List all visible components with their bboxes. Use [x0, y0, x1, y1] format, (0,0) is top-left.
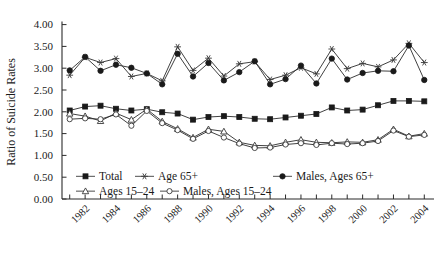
x-axis-tick-label: 1988 [161, 203, 184, 226]
x-axis-tick-label: 1984 [100, 202, 123, 225]
x-axis-tick-label: 1982 [69, 203, 92, 226]
data-point-marker [191, 117, 196, 122]
data-point-marker [206, 60, 211, 65]
series-age-65 [66, 40, 427, 83]
data-point-marker [360, 70, 365, 75]
data-point-marker [129, 65, 134, 70]
data-point-marker [329, 105, 334, 110]
data-point-marker [328, 46, 335, 52]
data-point-marker [160, 82, 165, 87]
data-point-marker [252, 59, 257, 64]
x-axis-tick-label: 1996 [285, 203, 308, 226]
x-axis-tick-label: 1990 [192, 203, 215, 226]
data-point-marker [67, 68, 72, 73]
data-point-marker [422, 77, 427, 82]
legend-item[interactable]: Males, Ages 15–24 [160, 185, 272, 198]
legend-label: Males, Ages 15–24 [183, 185, 272, 198]
legend-marker-icon [280, 174, 285, 179]
data-point-marker [359, 60, 366, 66]
data-point-marker [345, 141, 350, 146]
data-point-marker [97, 60, 104, 66]
series-line [70, 43, 425, 80]
series-line [70, 109, 425, 146]
data-point-marker [83, 116, 88, 121]
legend-marker-icon [167, 189, 172, 194]
data-point-marker [268, 117, 273, 122]
y-axis-tick-label: 1.50 [34, 127, 54, 139]
legend-item[interactable]: Age 65+ [135, 170, 198, 183]
y-axis-tick-labels: 0.000.501.001.502.002.503.003.504.00 [34, 18, 54, 204]
legend-label: Ages 15–24 [99, 185, 155, 198]
y-axis-title-group: Ratio of Suicide Rates [4, 58, 18, 166]
data-point-marker [237, 115, 242, 120]
data-point-marker [113, 56, 120, 62]
data-point-marker [283, 142, 288, 147]
data-point-marker [175, 111, 180, 116]
data-point-marker [391, 128, 396, 133]
data-point-marker [345, 108, 350, 113]
data-point-marker [129, 123, 134, 128]
data-point-marker [267, 82, 272, 87]
data-point-marker [313, 71, 320, 77]
data-point-marker [345, 77, 350, 82]
legend-item[interactable]: Ages 15–24 [76, 185, 155, 198]
data-point-marker [298, 63, 303, 68]
data-point-marker [391, 69, 396, 74]
data-point-marker [237, 69, 242, 74]
data-point-marker [98, 68, 103, 73]
data-point-marker [128, 116, 134, 122]
x-axis-tick-label: 2004 [408, 202, 431, 225]
data-point-marker [406, 134, 411, 139]
data-point-marker [174, 44, 181, 50]
data-point-marker [221, 135, 226, 140]
x-axis-tick-labels: 1982198419861988199019921994199619982000… [69, 202, 431, 225]
x-axis-tick-label: 2002 [377, 203, 400, 226]
data-point-marker [160, 121, 165, 126]
legend-item[interactable]: Total [76, 170, 122, 182]
legend-label: Males, Ages 65+ [296, 170, 374, 183]
data-point-marker [175, 51, 180, 56]
x-axis-tick-label: 1992 [223, 203, 246, 226]
x-axis-tick-label: 2000 [346, 203, 369, 226]
series-line [70, 101, 425, 120]
data-point-marker [221, 78, 226, 83]
data-point-marker [82, 54, 87, 59]
legend-label: Total [99, 170, 122, 182]
data-point-marker [190, 74, 195, 79]
chart-legend: TotalAge 65+Males, Ages 65+Ages 15–24Mal… [76, 170, 374, 198]
y-axis-tick-label: 2.50 [34, 84, 54, 96]
data-point-marker [206, 115, 211, 120]
data-point-marker [175, 128, 180, 133]
data-point-marker [252, 116, 257, 121]
legend-label: Age 65+ [158, 170, 198, 183]
y-axis-tick-label: 0.50 [34, 171, 54, 183]
data-point-marker [314, 111, 319, 116]
legend-item[interactable]: Males, Ages 65+ [273, 170, 374, 183]
data-point-marker [113, 112, 118, 117]
y-axis-title: Ratio of Suicide Rates [4, 58, 18, 166]
data-point-marker [298, 141, 303, 146]
data-point-marker [344, 66, 351, 72]
x-axis-tick-label: 1998 [316, 203, 339, 226]
data-point-marker [128, 74, 135, 80]
suicide-rate-ratio-chart: Ratio of Suicide Rates 0.000.501.001.502… [0, 0, 442, 253]
data-point-marker [83, 104, 88, 109]
series-layer [66, 40, 427, 150]
y-axis-tick-marks [62, 25, 67, 199]
data-point-marker [360, 107, 365, 112]
data-point-marker [329, 56, 334, 61]
data-point-marker [98, 117, 103, 122]
data-point-marker [283, 76, 288, 81]
data-point-marker [206, 128, 211, 133]
y-axis-tick-label: 4.00 [34, 18, 54, 30]
data-point-marker [221, 114, 226, 119]
x-axis-tick-label: 1994 [254, 202, 277, 225]
data-point-marker [375, 138, 380, 143]
data-point-marker [391, 98, 396, 103]
y-axis-tick-label: 1.00 [34, 149, 54, 161]
data-point-marker [422, 132, 427, 137]
data-point-marker [190, 136, 195, 141]
data-point-marker [237, 141, 242, 146]
data-point-marker [375, 68, 380, 73]
y-axis-tick-label: 0.00 [34, 193, 54, 205]
